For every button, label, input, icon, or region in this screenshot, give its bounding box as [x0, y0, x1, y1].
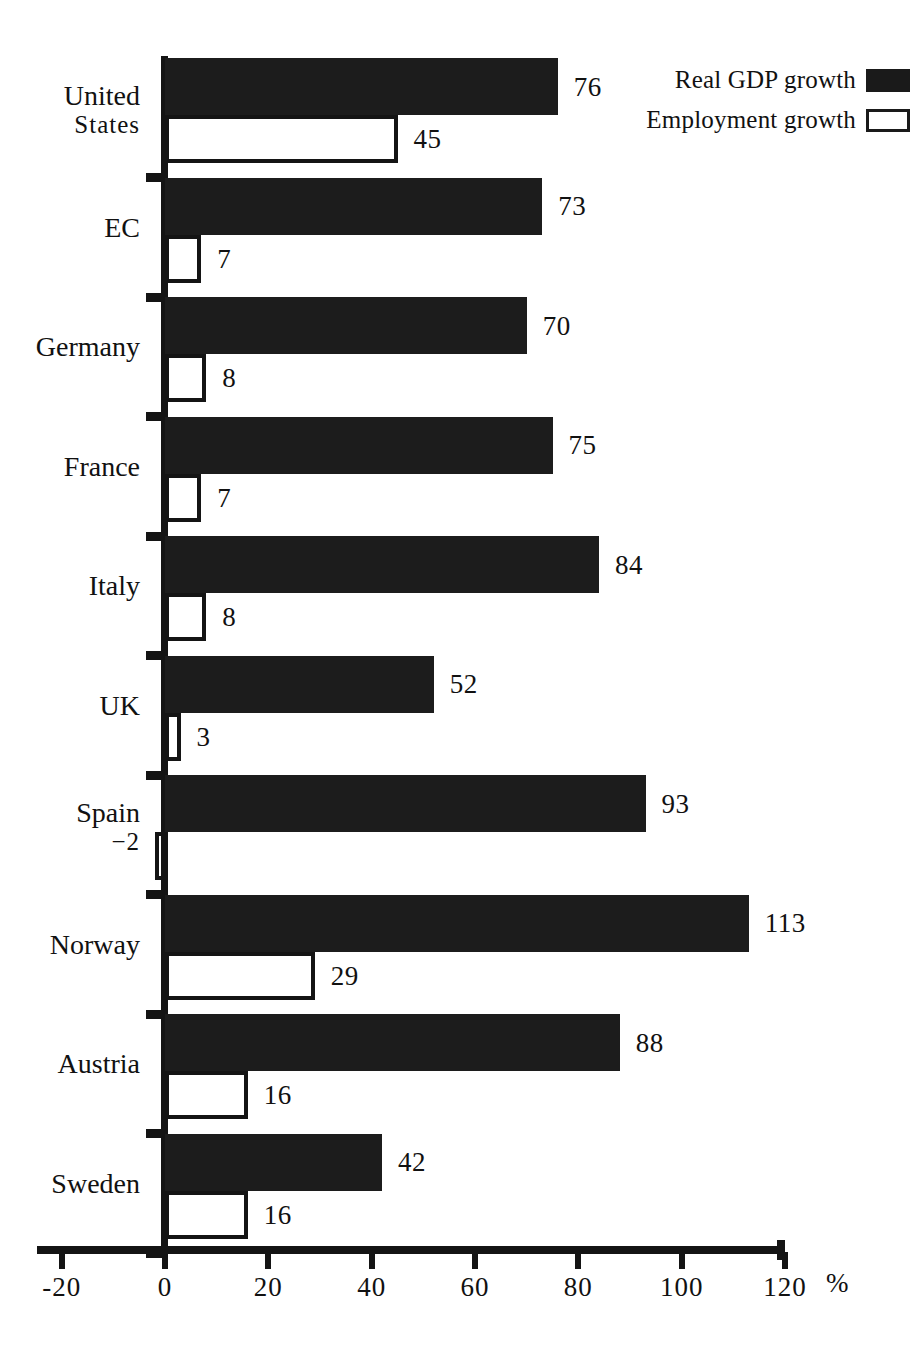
x-axis-tick: [59, 1252, 65, 1269]
bar-real-gdp-growth: [165, 1134, 382, 1191]
bar-employment-growth: [155, 832, 165, 880]
category-label-line2: States: [64, 111, 140, 138]
x-axis-tick-label: 40: [357, 1272, 386, 1303]
bar-real-gdp-growth: [165, 297, 527, 354]
category-label-line1: UK: [100, 690, 140, 721]
bar-value-employment-growth: 3: [197, 721, 211, 752]
x-axis-tick: [369, 1252, 375, 1269]
bar-real-gdp-growth: [165, 58, 558, 115]
x-axis-tick: [782, 1252, 788, 1269]
x-axis-tick: [472, 1252, 478, 1269]
bar-value-real-gdp-growth: 76: [574, 71, 602, 102]
bar-value-real-gdp-growth: 75: [569, 430, 597, 461]
bar-value-employment-growth: 16: [264, 1080, 292, 1111]
bar-real-gdp-growth: [165, 895, 749, 952]
category-label-line1: Norway: [50, 929, 140, 960]
category-label: Italy: [89, 571, 140, 601]
bar-value-real-gdp-growth: 88: [636, 1027, 664, 1058]
category-label: France: [64, 452, 140, 482]
bar-value-employment-growth: 7: [217, 243, 231, 274]
category-label-line2: −2: [76, 828, 140, 855]
bar-employment-growth: [165, 593, 206, 641]
bar-value-employment-growth: 16: [264, 1199, 292, 1230]
bar-value-real-gdp-growth: 113: [765, 908, 806, 939]
category-label: Norway: [50, 930, 140, 960]
bar-employment-growth: [165, 713, 181, 761]
category-label: EC: [104, 213, 140, 243]
category-label-line1: Germany: [36, 331, 140, 362]
bar-employment-growth: [165, 235, 201, 283]
bar-real-gdp-growth: [165, 417, 553, 474]
category-label-line1: France: [64, 451, 140, 482]
category-axis-tick: [146, 1249, 168, 1258]
x-axis-tick-label: 120: [763, 1272, 807, 1303]
bar-value-employment-growth: 7: [217, 482, 231, 513]
category-label: Spain−2: [76, 798, 140, 855]
bar-employment-growth: [165, 1071, 248, 1119]
category-label-line1: Spain: [76, 797, 140, 828]
bar-value-employment-growth: 8: [222, 363, 236, 394]
bar-value-real-gdp-growth: 52: [450, 669, 478, 700]
bar-value-real-gdp-growth: 70: [543, 310, 571, 341]
category-label: UK: [100, 691, 140, 721]
category-label-line1: EC: [104, 212, 140, 243]
bar-real-gdp-growth: [165, 775, 646, 832]
bar-real-gdp-growth: [165, 656, 434, 713]
x-axis-tick-label: 20: [254, 1272, 283, 1303]
x-axis-tick: [265, 1252, 271, 1269]
bar-employment-growth: [165, 952, 315, 1000]
category-label-line1: United: [64, 80, 140, 111]
bar-value-real-gdp-growth: 93: [662, 788, 690, 819]
bar-value-real-gdp-growth: 42: [398, 1147, 426, 1178]
bar-real-gdp-growth: [165, 1014, 620, 1071]
category-label-line1: Sweden: [51, 1168, 140, 1199]
bar-employment-growth: [165, 115, 398, 163]
x-axis-tick-label: -20: [42, 1272, 81, 1303]
bar-value-real-gdp-growth: 73: [558, 191, 586, 222]
category-label-line1: Austria: [58, 1048, 140, 1079]
bar-value-real-gdp-growth: 84: [615, 549, 643, 580]
bar-value-employment-growth: 29: [331, 960, 359, 991]
category-label: Austria: [58, 1049, 140, 1079]
x-axis-tick-label: 80: [564, 1272, 593, 1303]
category-label-line1: Italy: [89, 570, 140, 601]
x-axis-tick: [575, 1252, 581, 1269]
category-label: Germany: [36, 332, 140, 362]
category-label: UnitedStates: [64, 81, 140, 138]
plot-area: % -200204060801001207645UnitedStates737E…: [0, 0, 919, 1365]
bar-employment-growth: [165, 1191, 248, 1239]
x-axis-tick-label: 0: [158, 1272, 173, 1303]
x-axis-tick-label: 60: [461, 1272, 490, 1303]
category-label: Sweden: [51, 1169, 140, 1199]
bar-employment-growth: [165, 354, 206, 402]
bar-value-employment-growth: 8: [222, 602, 236, 633]
axis-unit-label: %: [826, 1268, 849, 1299]
bar-chart: Real GDP growth Employment growth % -200…: [0, 0, 919, 1365]
bar-real-gdp-growth: [165, 178, 542, 235]
x-axis-tick: [679, 1252, 685, 1269]
bar-real-gdp-growth: [165, 536, 599, 593]
x-axis-tick-label: 100: [660, 1272, 704, 1303]
bar-value-employment-growth: 45: [414, 124, 442, 155]
bar-employment-growth: [165, 474, 201, 522]
